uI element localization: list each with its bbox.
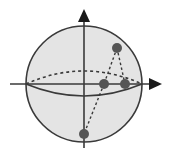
sphere-diagram bbox=[0, 0, 170, 150]
vertical-axis-arrow-icon bbox=[78, 9, 90, 22]
horizontal-axis-arrow-icon bbox=[149, 78, 162, 90]
point-equator-outer bbox=[120, 79, 130, 89]
point-equator-inner bbox=[99, 79, 109, 89]
point-bottom bbox=[79, 129, 89, 139]
point-top bbox=[112, 43, 122, 53]
sphere-diagram-canvas bbox=[0, 0, 170, 150]
